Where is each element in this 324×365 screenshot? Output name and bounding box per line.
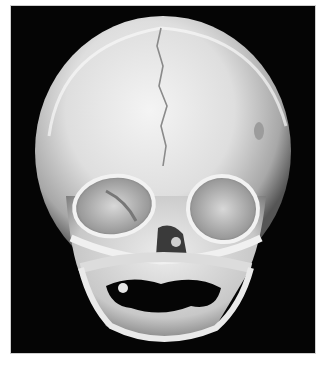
- skull-rendering: [11, 6, 316, 354]
- image-frame: [10, 5, 316, 354]
